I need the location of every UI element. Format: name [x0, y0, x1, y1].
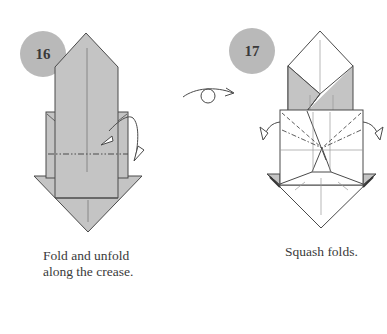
step-16-caption: Fold and unfold along the crease. [43, 248, 133, 280]
step-16-caption-line2: along the crease. [43, 264, 133, 280]
step-16: 16 [20, 31, 144, 232]
step-17-caption: Squash folds. [285, 244, 358, 260]
step-17-number: 17 [245, 43, 261, 59]
step-16-caption-line1: Fold and unfold [43, 248, 133, 264]
squash-arrow-left [260, 122, 280, 140]
squash-arrow-right [363, 122, 383, 140]
origami-diagram: 16 17 [0, 0, 387, 334]
turn-over-arrow [183, 88, 234, 103]
center-strip [55, 33, 118, 198]
step-17: 17 [229, 28, 383, 228]
step-17-caption-line1: Squash folds. [285, 244, 358, 260]
step-16-number: 16 [36, 46, 52, 62]
